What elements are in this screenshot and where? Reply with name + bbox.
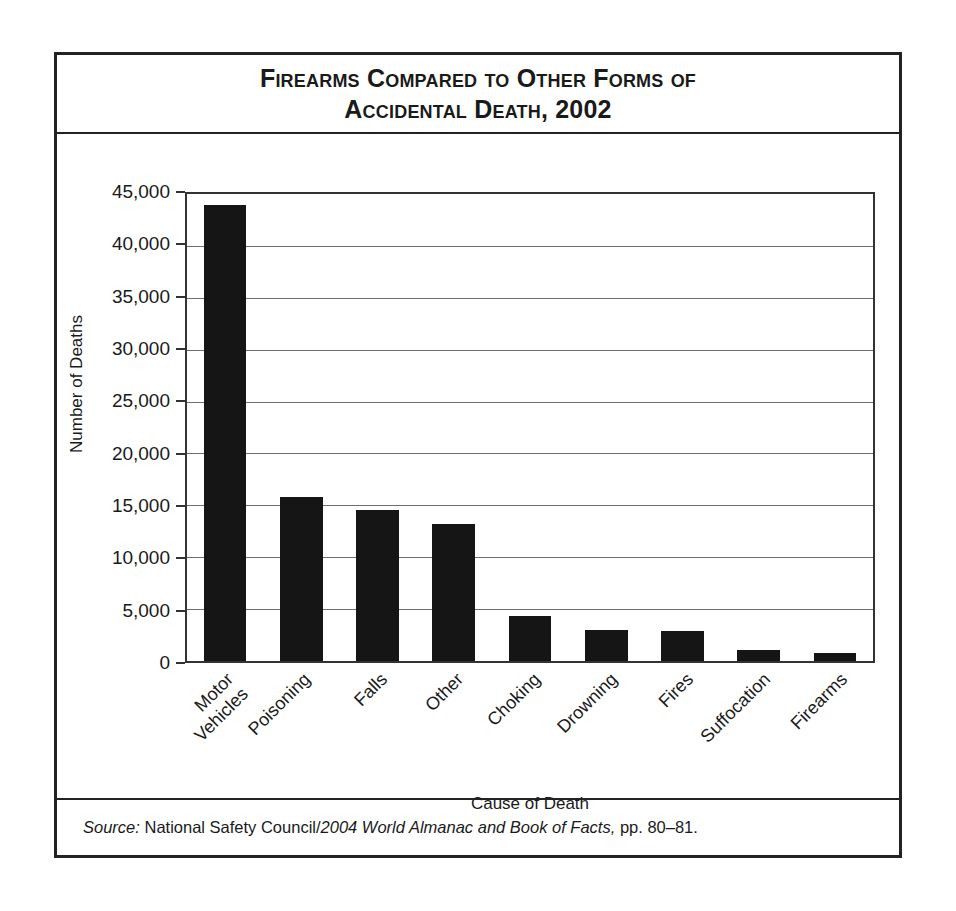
y-axis-tick-label: 35,000 — [112, 286, 176, 308]
bar-slot — [721, 194, 797, 661]
y-axis-tick-label: 10,000 — [112, 547, 176, 569]
y-axis-tick: 30,000 — [57, 338, 185, 360]
chart-title: Firearms Compared to Other Forms of Acci… — [240, 63, 716, 124]
y-axis-tick: 40,000 — [57, 233, 185, 255]
y-axis-tick-label: 5,000 — [122, 600, 176, 622]
x-axis-category: Firearms — [798, 663, 875, 793]
x-axis-category-label-line: Choking — [483, 669, 544, 730]
y-axis-tick-label: 25,000 — [112, 390, 176, 412]
y-axis-tick-mark — [176, 662, 185, 664]
bar-slot — [339, 194, 415, 661]
plot-area — [185, 192, 875, 663]
bar — [814, 653, 857, 661]
y-axis-tick: 25,000 — [57, 390, 185, 412]
y-axis-tick-mark — [176, 610, 185, 612]
y-axis-tick: 5,000 — [57, 600, 185, 622]
bar — [585, 630, 628, 661]
y-axis-ticks: 05,00010,00015,00020,00025,00030,00035,0… — [57, 192, 185, 663]
x-axis-category: Falls — [338, 663, 415, 793]
y-axis-tick-label: 0 — [159, 652, 176, 674]
bar — [280, 497, 323, 661]
bar — [356, 510, 399, 662]
y-axis-tick: 10,000 — [57, 547, 185, 569]
y-axis-tick-mark — [176, 505, 185, 507]
source-band: Source: National Safety Council/2004 Wor… — [57, 798, 899, 855]
bar-slot — [492, 194, 568, 661]
source-publisher: National Safety Council/ — [144, 818, 320, 836]
y-axis-tick-label: 45,000 — [112, 181, 176, 203]
x-axis-category: Choking — [492, 663, 569, 793]
bar — [204, 205, 247, 661]
y-axis-tick-label: 40,000 — [112, 233, 176, 255]
y-axis-tick: 0 — [57, 652, 185, 674]
bar-slot — [416, 194, 492, 661]
y-axis-tick-label: 20,000 — [112, 443, 176, 465]
plot-region: Number of Deaths 05,00010,00015,00020,00… — [57, 134, 899, 855]
y-axis-tick: 35,000 — [57, 286, 185, 308]
bar — [661, 631, 704, 661]
x-axis-category-label: Choking — [483, 669, 545, 731]
y-axis-tick-mark — [176, 453, 185, 455]
y-axis-tick-mark — [176, 296, 185, 298]
y-axis-tick: 15,000 — [57, 495, 185, 517]
bar-slot — [797, 194, 873, 661]
y-axis-tick-mark — [176, 348, 185, 350]
x-axis-category-label: Fires — [655, 669, 698, 712]
x-axis-category-label-line: Falls — [350, 669, 391, 710]
chart-title-line-2: Accidental Death, 2002 — [260, 94, 696, 125]
x-axis-category-labels: MotorVehiclesPoisoningFallsOtherChokingD… — [185, 663, 875, 793]
source-work: 2004 World Almanac and Book of Facts, — [321, 818, 616, 836]
x-axis-category-label-line: Other — [422, 669, 468, 715]
chart-title-line-1: Firearms Compared to Other Forms of — [260, 63, 696, 94]
bar-slot — [187, 194, 263, 661]
bars-layer — [187, 194, 873, 661]
x-axis-category: Poisoning — [262, 663, 339, 793]
x-axis-category-label: Other — [422, 669, 469, 716]
title-band: Firearms Compared to Other Forms of Acci… — [57, 55, 899, 134]
y-axis-tick: 20,000 — [57, 443, 185, 465]
x-axis-category: Drowning — [568, 663, 645, 793]
x-axis-category-label: MotorVehicles — [176, 669, 253, 746]
y-axis-tick-label: 15,000 — [112, 495, 176, 517]
bar — [432, 524, 475, 661]
y-axis-tick-mark — [176, 191, 185, 193]
x-axis-category-label-line: Fires — [655, 669, 697, 711]
y-axis-tick-mark — [176, 243, 185, 245]
x-axis-category: Other — [415, 663, 492, 793]
source-note: Source: National Safety Council/2004 Wor… — [83, 818, 698, 837]
y-axis-tick-mark — [176, 557, 185, 559]
bar — [737, 650, 780, 661]
x-axis-category: Suffocation — [722, 663, 799, 793]
y-axis-tick-label: 30,000 — [112, 338, 176, 360]
figure-frame: Firearms Compared to Other Forms of Acci… — [54, 52, 902, 858]
x-axis-category-label: Falls — [350, 669, 392, 711]
y-axis-tick-mark — [176, 400, 185, 402]
bar — [509, 616, 552, 661]
source-pages: pp. 80–81. — [620, 818, 698, 836]
bar-slot — [644, 194, 720, 661]
y-axis-tick: 45,000 — [57, 181, 185, 203]
bar-slot — [568, 194, 644, 661]
source-label: Source: — [83, 818, 140, 836]
bar-slot — [263, 194, 339, 661]
